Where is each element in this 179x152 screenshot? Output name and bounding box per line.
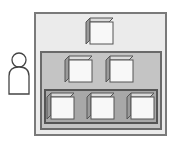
cube-icon: [86, 92, 116, 120]
cube-icon: [105, 55, 135, 83]
cube-icon: [85, 17, 115, 45]
cube-icon: [64, 55, 94, 83]
cube-icon: [126, 92, 156, 120]
cube-icon: [46, 92, 76, 120]
person-icon: [8, 52, 30, 95]
